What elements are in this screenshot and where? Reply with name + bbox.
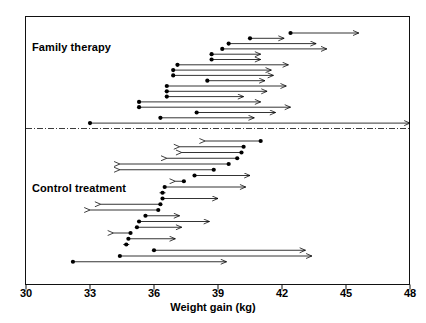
data-row	[165, 84, 287, 88]
series-group-family-therapy	[88, 31, 410, 125]
baseline-dot	[259, 139, 263, 143]
baseline-dot	[175, 63, 179, 67]
baseline-dot	[288, 31, 292, 35]
baseline-dot	[220, 47, 224, 51]
data-row	[158, 116, 254, 120]
baseline-dot	[212, 168, 216, 172]
data-row	[163, 185, 246, 189]
baseline-dot	[171, 68, 175, 72]
x-tick-label: 45	[340, 287, 352, 299]
data-row	[227, 42, 317, 46]
baseline-dot	[143, 214, 147, 218]
baseline-dot	[135, 225, 139, 229]
baseline-dot	[137, 105, 141, 109]
data-row	[210, 52, 261, 56]
data-row	[180, 145, 246, 149]
baseline-dot	[158, 202, 162, 206]
baseline-dot	[205, 79, 209, 83]
data-row	[220, 47, 327, 51]
baseline-dot	[210, 57, 214, 61]
baseline-dot	[160, 191, 164, 195]
x-tick-label: 36	[148, 287, 160, 299]
data-row	[152, 248, 306, 252]
baseline-dot	[182, 179, 186, 183]
baseline-dot	[248, 36, 252, 40]
x-tick-label: 48	[404, 287, 416, 299]
baseline-dot	[124, 242, 128, 246]
baseline-dot	[235, 156, 239, 160]
group-label-control-treatment: Control treatment	[32, 182, 126, 194]
data-row	[101, 202, 163, 206]
x-axis-title: Weight gain (kg)	[170, 301, 255, 313]
baseline-dot	[137, 219, 141, 223]
data-row	[118, 254, 312, 258]
baseline-dot	[165, 89, 169, 93]
data-row	[195, 110, 276, 114]
data-row	[205, 79, 265, 83]
data-row	[175, 179, 186, 183]
data-row	[160, 191, 166, 195]
data-row	[120, 168, 216, 172]
baseline-dot	[192, 173, 196, 177]
x-tick-label: 42	[276, 287, 288, 299]
x-tick-label: 39	[212, 287, 224, 299]
data-row	[165, 89, 267, 93]
data-row	[210, 57, 261, 61]
data-row	[160, 196, 218, 200]
data-row	[126, 237, 175, 241]
data-row	[171, 68, 271, 72]
data-row	[88, 121, 410, 125]
data-row	[182, 150, 244, 154]
baseline-dot	[71, 260, 75, 264]
data-row	[71, 260, 227, 264]
data-row	[171, 73, 273, 77]
data-row	[175, 63, 288, 67]
data-row	[205, 139, 263, 143]
data-row	[288, 31, 358, 35]
baseline-dot	[239, 150, 243, 154]
baseline-dot	[165, 84, 169, 88]
baseline-dot	[242, 145, 246, 149]
baseline-dot	[128, 231, 132, 235]
data-row	[135, 225, 182, 229]
baseline-dot	[227, 42, 231, 46]
baseline-dot	[156, 208, 160, 212]
data-row	[137, 100, 261, 104]
baseline-dot	[152, 248, 156, 252]
x-tick-label: 33	[84, 287, 96, 299]
plot-frame	[26, 17, 410, 285]
baseline-dot	[160, 196, 164, 200]
data-row	[113, 231, 132, 235]
data-row	[143, 214, 179, 218]
baseline-dot	[210, 52, 214, 56]
series-group-control-treatment	[71, 139, 312, 264]
chart-figure: Family therapy Control treatment 3033363…	[0, 0, 426, 323]
baseline-dot	[158, 116, 162, 120]
data-row	[123, 242, 129, 246]
baseline-dot	[126, 237, 130, 241]
data-row	[167, 156, 239, 160]
baseline-dot	[171, 73, 175, 77]
data-row	[137, 105, 291, 109]
baseline-dot	[195, 110, 199, 114]
baseline-dot	[165, 95, 169, 99]
data-row	[120, 162, 231, 166]
baseline-dot	[163, 185, 167, 189]
baseline-dot	[88, 121, 92, 125]
x-tick-label: 30	[20, 287, 32, 299]
group-label-family-therapy: Family therapy	[32, 41, 111, 53]
data-row	[90, 208, 160, 212]
baseline-dot	[118, 254, 122, 258]
baseline-dot	[227, 162, 231, 166]
baseline-dot	[137, 100, 141, 104]
data-row	[248, 36, 284, 40]
data-row	[192, 173, 250, 177]
data-row	[165, 95, 244, 99]
data-row	[137, 219, 210, 223]
